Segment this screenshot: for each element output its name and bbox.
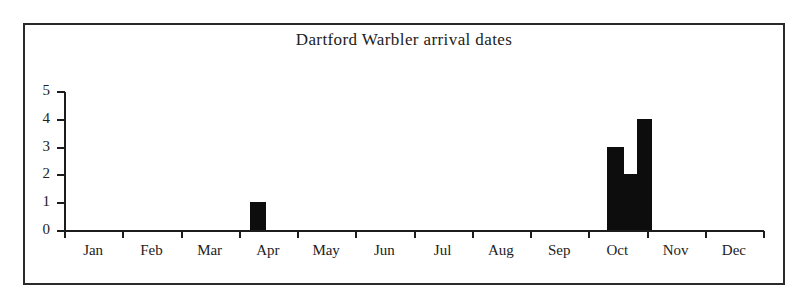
x-axis-tick (355, 231, 357, 238)
x-axis-tick-label: Jun (354, 241, 414, 259)
x-axis-tick (181, 231, 183, 238)
y-axis-line (64, 92, 66, 232)
x-axis-tick-label: Feb (121, 241, 181, 259)
bar (250, 202, 266, 230)
plot-area: 012345 JanFebMarAprMayJunJulAugSepOctNov… (0, 0, 808, 304)
x-axis-tick-label: Mar (180, 241, 240, 259)
x-axis-tick (705, 231, 707, 238)
x-axis-tick-label: Sep (529, 241, 589, 259)
x-axis-tick-label: Jan (63, 241, 123, 259)
x-axis-tick-label: Dec (704, 241, 764, 259)
x-axis-tick (588, 231, 590, 238)
y-axis-tick-label: 0 (28, 222, 50, 237)
x-axis-tick (122, 231, 124, 238)
x-axis-tick (763, 231, 765, 238)
x-axis-tick (64, 231, 66, 238)
y-axis-tick-label: 3 (28, 139, 50, 154)
x-axis-tick-label: May (296, 241, 356, 259)
x-axis-tick-label: Jul (413, 241, 473, 259)
y-axis-tick-label: 2 (28, 166, 50, 181)
bar (637, 119, 653, 230)
x-axis-tick-label: Nov (646, 241, 706, 259)
y-axis-tick-label: 4 (28, 111, 50, 126)
y-axis-tick-label: 5 (28, 83, 50, 98)
x-axis-tick (239, 231, 241, 238)
x-axis-tick (647, 231, 649, 238)
y-axis-tick (57, 174, 65, 176)
bar (607, 147, 623, 230)
y-axis-tick (57, 119, 65, 121)
x-axis-tick (297, 231, 299, 238)
bar (624, 174, 637, 230)
y-axis-tick-label: 1 (28, 194, 50, 209)
x-axis-tick-label: Apr (238, 241, 298, 259)
y-axis-tick (57, 202, 65, 204)
y-axis-tick (57, 147, 65, 149)
x-axis-tick (530, 231, 532, 238)
x-axis-tick (472, 231, 474, 238)
figure: Dartford Warbler arrival dates 012345 Ja… (0, 0, 808, 304)
x-axis-tick (414, 231, 416, 238)
y-axis-tick (57, 91, 65, 93)
x-axis-tick-label: Aug (471, 241, 531, 259)
x-axis-tick-label: Oct (587, 241, 647, 259)
